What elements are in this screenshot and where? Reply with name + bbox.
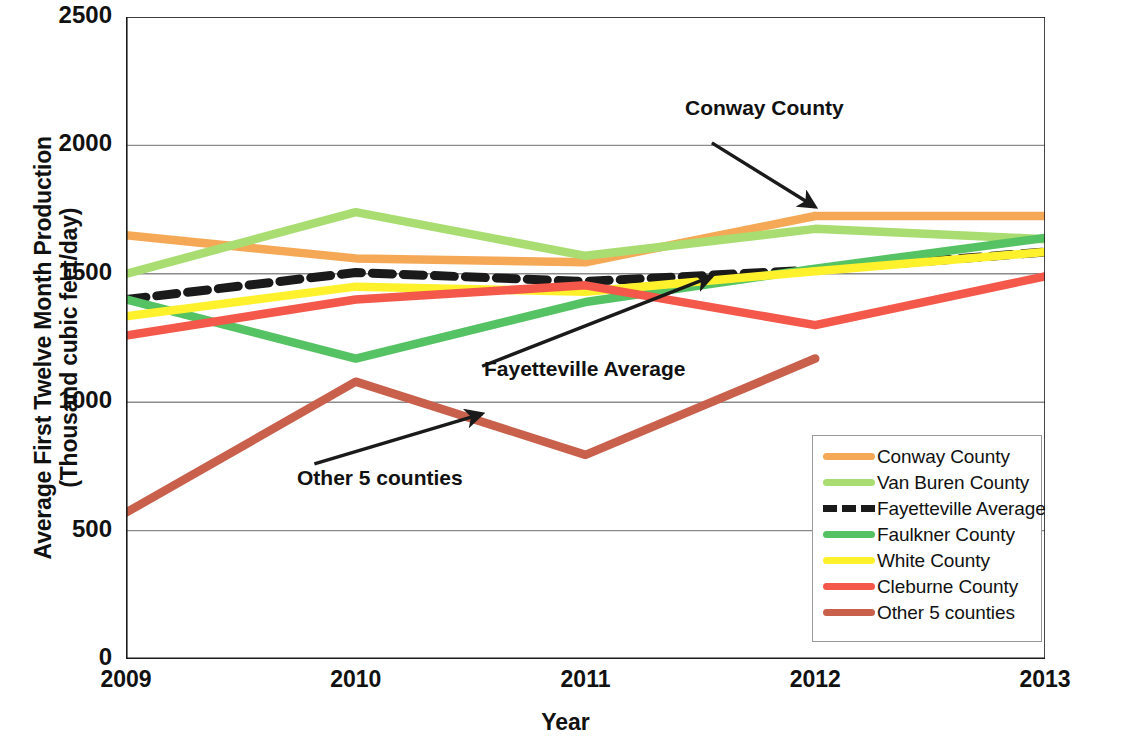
legend-item[interactable]: Conway County bbox=[819, 443, 1035, 469]
x-tick-label: 2009 bbox=[66, 666, 186, 693]
x-tick-label: 2013 bbox=[985, 666, 1105, 693]
legend-swatch-icon bbox=[819, 573, 877, 599]
legend-swatch-icon bbox=[819, 469, 877, 495]
legend-swatch-icon bbox=[819, 599, 877, 625]
x-tick-label: 2012 bbox=[755, 666, 875, 693]
y-tick-label: 2000 bbox=[8, 129, 112, 157]
legend-item-label: Faulkner County bbox=[877, 525, 1015, 544]
series-line-other-5-counties bbox=[126, 359, 815, 513]
legend-item[interactable]: White County bbox=[819, 547, 1035, 573]
legend-item[interactable]: Other 5 counties bbox=[819, 599, 1035, 625]
annotation-other-5-counties: Other 5 counties bbox=[297, 466, 463, 490]
legend-item-label: Fayetteville Average bbox=[877, 499, 1046, 518]
x-axis-title: Year bbox=[0, 709, 1131, 736]
y-tick-label: 500 bbox=[8, 515, 112, 543]
legend-item[interactable]: Cleburne County bbox=[819, 573, 1035, 599]
legend-swatch-icon bbox=[819, 495, 877, 521]
legend-item-label: Conway County bbox=[877, 447, 1010, 466]
legend-item-label: White County bbox=[877, 551, 990, 570]
legend-swatch-icon bbox=[819, 547, 877, 573]
legend-item-label: Other 5 counties bbox=[877, 603, 1015, 622]
line-chart: Average First Twelve Month Production (T… bbox=[0, 0, 1131, 744]
annotation-conway-county: Conway County bbox=[685, 96, 844, 120]
legend-item-label: Cleburne County bbox=[877, 577, 1018, 596]
legend-swatch-icon bbox=[819, 521, 877, 547]
y-tick-label: 1500 bbox=[8, 258, 112, 286]
legend-item[interactable]: Faulkner County bbox=[819, 521, 1035, 547]
x-tick-label: 2010 bbox=[296, 666, 416, 693]
annotation-fayetteville-average: Fayetteville Average bbox=[484, 357, 686, 381]
legend-item-label: Van Buren County bbox=[877, 473, 1029, 492]
annotation-arrow bbox=[314, 414, 482, 464]
legend-swatch-icon bbox=[819, 443, 877, 469]
x-tick-label: 2011 bbox=[526, 666, 646, 693]
chart-legend: Conway CountyVan Buren CountyFayettevill… bbox=[812, 435, 1042, 642]
y-tick-label: 1000 bbox=[8, 386, 112, 414]
y-tick-label: 2500 bbox=[8, 1, 112, 29]
annotation-arrow bbox=[712, 143, 815, 207]
legend-item[interactable]: Van Buren County bbox=[819, 469, 1035, 495]
legend-item[interactable]: Fayetteville Average bbox=[819, 495, 1035, 521]
